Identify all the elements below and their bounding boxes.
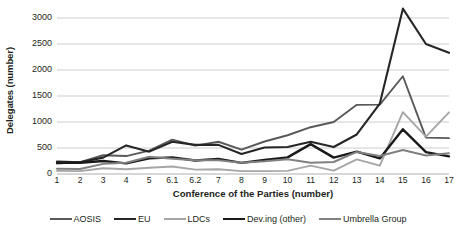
legend-item-label: LDCs xyxy=(188,214,211,224)
legend-item-label: Dev.ing (other) xyxy=(247,214,306,224)
x-tick-label: 12 xyxy=(329,175,339,185)
y-tick-label: 0 xyxy=(47,169,52,178)
legend-item[interactable]: Umbrella Group xyxy=(319,214,407,224)
delegates-line-chart: Delegates (number) 300025002000150010005… xyxy=(0,0,456,237)
y-axis-title-label: Delegates (number) xyxy=(4,47,15,134)
y-tick-label: 3000 xyxy=(32,13,52,22)
legend-item[interactable]: AOSIS xyxy=(50,214,102,224)
x-tick-label: 16 xyxy=(421,175,431,185)
legend-line-swatch-icon xyxy=(50,218,72,220)
chart-legend: AOSISEULDCsDev.ing (other)Umbrella Group xyxy=(0,208,456,230)
x-tick-label: 15 xyxy=(398,175,408,185)
legend-line-swatch-icon xyxy=(114,218,136,220)
x-tick-label: 11 xyxy=(306,175,315,185)
y-axis-title: Delegates (number) xyxy=(0,0,18,180)
x-tick-label: 7 xyxy=(216,175,221,185)
x-tick-label: 3 xyxy=(101,175,106,185)
x-axis-tick-labels: 123456.16.27891011121314151617 xyxy=(57,175,449,189)
y-tick-label: 2500 xyxy=(32,39,52,48)
x-axis-title: Conference of the Parties (number) xyxy=(57,188,449,199)
legend-item-label: EU xyxy=(138,214,151,224)
x-tick-label: 8 xyxy=(239,175,244,185)
y-tick-label: 2000 xyxy=(32,65,52,74)
legend-line-swatch-icon xyxy=(319,218,341,220)
legend-item-label: Umbrella Group xyxy=(343,214,407,224)
y-axis-tick-labels: 300025002000150010005000 xyxy=(18,0,54,180)
x-tick-label: 10 xyxy=(283,175,293,185)
x-tick-label: 5 xyxy=(147,175,152,185)
x-tick-label: 17 xyxy=(444,175,454,185)
legend-item[interactable]: Dev.ing (other) xyxy=(223,214,306,224)
x-tick-label: 4 xyxy=(124,175,129,185)
plot-area xyxy=(57,18,449,174)
legend-item[interactable]: EU xyxy=(114,214,151,224)
y-tick-label: 1000 xyxy=(32,117,52,126)
x-tick-label: 6.1 xyxy=(166,175,178,185)
chart-svg xyxy=(57,18,449,174)
legend-line-swatch-icon xyxy=(164,218,186,220)
x-tick-label: 13 xyxy=(352,175,362,185)
y-tick-label: 1500 xyxy=(32,91,52,100)
x-tick-label: 6.2 xyxy=(189,175,201,185)
legend-item[interactable]: LDCs xyxy=(164,214,211,224)
y-tick-label: 500 xyxy=(37,143,52,152)
x-tick-label: 2 xyxy=(78,175,83,185)
legend-item-label: AOSIS xyxy=(74,214,102,224)
legend-line-swatch-icon xyxy=(223,218,245,220)
x-tick-label: 14 xyxy=(375,175,385,185)
x-tick-label: 1 xyxy=(55,175,60,185)
series-line-umbrella-group xyxy=(57,150,449,169)
x-tick-label: 9 xyxy=(262,175,267,185)
